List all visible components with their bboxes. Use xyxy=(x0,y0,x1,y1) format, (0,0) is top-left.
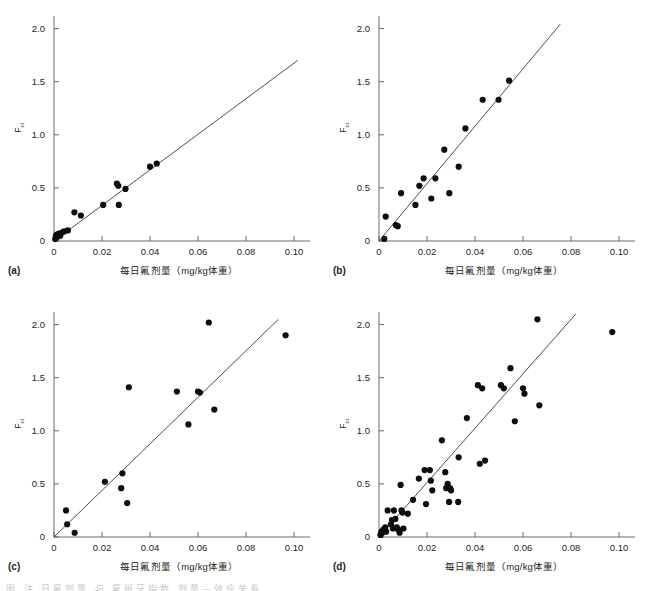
data-point xyxy=(185,421,191,427)
scatter-plot-b: 00.020.040.060.080.1000.51.01.52.0 xyxy=(325,0,650,296)
x-axis-ticks: 00.020.040.060.080.10 xyxy=(51,532,303,553)
panel-label-b: (b) xyxy=(333,265,346,276)
y-tick-label: 1.5 xyxy=(32,76,45,87)
data-point xyxy=(422,467,428,473)
y-axis-ticks: 00.51.01.52.0 xyxy=(32,23,59,246)
y-tick-label: 0.5 xyxy=(32,478,45,489)
data-point xyxy=(383,529,389,535)
data-point xyxy=(421,175,427,181)
data-points xyxy=(377,316,615,538)
data-point xyxy=(381,236,387,242)
y-tick-label: 1.0 xyxy=(357,425,370,436)
footer-caption-text: 图 注 日氟剂量 与 氟斑牙指数 剂量—效应关系 xyxy=(6,584,262,591)
data-point xyxy=(482,457,488,463)
axes xyxy=(54,312,310,537)
data-point xyxy=(439,437,445,443)
y-tick-label: 1.5 xyxy=(357,372,370,383)
data-point xyxy=(446,190,452,196)
data-point xyxy=(118,485,124,491)
data-point xyxy=(412,202,418,208)
x-tick-label: 0.10 xyxy=(610,246,629,257)
chart-panel-a: 00.020.040.060.080.1000.51.01.52.0每日氟剂量（… xyxy=(0,0,325,296)
y-axis-label-main: F xyxy=(13,423,23,428)
data-point xyxy=(448,487,454,493)
data-point xyxy=(122,186,128,192)
y-axis-label: Fci xyxy=(13,419,25,429)
y-axis-label-subscript: ci xyxy=(343,123,350,127)
axes xyxy=(379,312,635,537)
data-point xyxy=(423,501,429,507)
data-point xyxy=(534,316,540,322)
regression-line xyxy=(54,60,298,241)
data-point xyxy=(400,525,406,531)
data-point xyxy=(416,183,422,189)
chart-panel-d: 00.020.040.060.080.1000.51.01.52.0每日氟剂量（… xyxy=(325,296,650,591)
panel-label-d: (d) xyxy=(333,561,346,572)
data-point xyxy=(456,454,462,460)
y-tick-label: 2.0 xyxy=(32,319,45,330)
x-tick-label: 0.08 xyxy=(237,542,256,553)
x-tick-label: 0.06 xyxy=(514,542,533,553)
data-point xyxy=(405,511,411,517)
x-axis-ticks: 00.020.040.060.080.10 xyxy=(376,236,628,257)
data-point xyxy=(609,329,615,335)
y-axis-ticks: 00.51.01.52.0 xyxy=(357,319,384,542)
data-point xyxy=(442,469,448,475)
x-tick-label: 0 xyxy=(51,246,56,257)
data-point xyxy=(78,212,84,218)
data-point xyxy=(71,209,77,215)
regression-line xyxy=(54,319,278,537)
y-tick-label: 0 xyxy=(40,235,45,246)
x-tick-label: 0.04 xyxy=(141,542,160,553)
x-axis-label: 每日氟剂量（mg/kg体重） xyxy=(445,263,564,277)
chart-panel-c: 00.020.040.060.080.1000.51.01.52.0每日氟剂量（… xyxy=(0,296,325,591)
data-point xyxy=(283,332,289,338)
y-tick-label: 2.0 xyxy=(357,23,370,34)
data-point xyxy=(385,507,391,513)
x-tick-label: 0.06 xyxy=(514,246,533,257)
figure-panel-grid: 00.020.040.060.080.1000.51.01.52.0每日氟剂量（… xyxy=(0,0,650,591)
data-point xyxy=(441,147,447,153)
y-axis-ticks: 00.51.01.52.0 xyxy=(357,23,384,246)
y-axis-label-subscript: ci xyxy=(18,123,25,127)
data-point xyxy=(456,164,462,170)
y-tick-label: 1.5 xyxy=(32,372,45,383)
y-tick-label: 0 xyxy=(40,531,45,542)
x-tick-label: 0.02 xyxy=(93,246,112,257)
data-points xyxy=(52,160,160,242)
panel-label-c: (c) xyxy=(8,561,20,572)
x-tick-label: 0 xyxy=(376,542,381,553)
x-tick-label: 0.08 xyxy=(562,542,581,553)
x-tick-label: 0.06 xyxy=(189,246,208,257)
axes xyxy=(54,16,310,241)
y-tick-label: 0.5 xyxy=(357,478,370,489)
data-point xyxy=(512,418,518,424)
data-point xyxy=(428,478,434,484)
data-point xyxy=(126,384,132,390)
data-point xyxy=(154,160,160,166)
data-point xyxy=(521,391,527,397)
data-point xyxy=(479,385,485,391)
y-axis-label: Fci xyxy=(338,419,350,429)
panel-label-a: (a) xyxy=(8,265,20,276)
scatter-plot-c: 00.020.040.060.080.1000.51.01.52.0 xyxy=(0,296,325,591)
data-point xyxy=(477,461,483,467)
x-tick-label: 0.04 xyxy=(141,246,160,257)
x-axis-ticks: 00.020.040.060.080.10 xyxy=(51,236,303,257)
data-point xyxy=(428,195,434,201)
x-tick-label: 0.02 xyxy=(93,542,112,553)
x-axis-label: 每日氟剂量（mg/kg体重） xyxy=(445,559,564,573)
data-point xyxy=(410,497,416,503)
y-tick-label: 0 xyxy=(365,531,370,542)
data-point xyxy=(211,406,217,412)
data-point xyxy=(395,223,401,229)
data-point xyxy=(455,499,461,505)
y-axis-label-main: F xyxy=(338,423,348,428)
x-tick-label: 0.02 xyxy=(418,246,437,257)
data-point xyxy=(392,516,398,522)
data-point xyxy=(115,183,121,189)
y-axis-label-subscript: ci xyxy=(18,419,25,423)
y-axis-ticks: 00.51.01.52.0 xyxy=(32,319,59,542)
x-axis-ticks: 00.020.040.060.080.10 xyxy=(376,532,628,553)
regression-line xyxy=(379,24,560,241)
